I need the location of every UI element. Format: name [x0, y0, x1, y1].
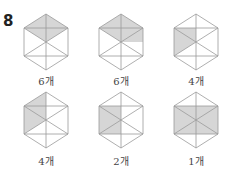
hexagon-diagram — [93, 12, 149, 72]
count-label-3: 4개 — [168, 73, 224, 88]
hexagon-diagram — [168, 90, 224, 150]
hexagon-figure-1 — [18, 12, 74, 72]
count-label-4: 4개 — [18, 153, 74, 168]
count-label-6: 1개 — [168, 153, 224, 168]
hexagon-figure-2 — [93, 12, 149, 72]
hexagon-figure-3 — [168, 12, 224, 72]
hexagon-diagram — [93, 90, 149, 150]
hexagon-diagram — [18, 12, 74, 72]
hexagon-figure-4 — [18, 90, 74, 150]
hexagon-figure-5 — [93, 90, 149, 150]
hexagon-diagram — [18, 90, 74, 150]
cropped-instruction-text: ~ ~ ~ ~ ~ — [38, 0, 114, 4]
count-label-2: 6개 — [93, 73, 149, 88]
hexagon-diagram — [168, 12, 224, 72]
hexagon-figure-6 — [168, 90, 224, 150]
question-number: 8 — [3, 12, 13, 30]
count-label-1: 6개 — [18, 73, 74, 88]
count-label-5: 2개 — [93, 153, 149, 168]
